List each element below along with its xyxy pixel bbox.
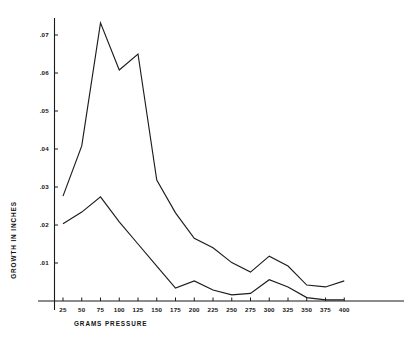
y-tick-label: .01: [40, 259, 50, 266]
x-tick-label: 300: [264, 306, 275, 313]
x-tick-label: 175: [170, 306, 181, 313]
x-tick-label: 225: [207, 306, 218, 313]
x-tick-label: 375: [320, 306, 331, 313]
x-tick-label: 200: [189, 306, 200, 313]
y-tick-label: .06: [40, 69, 50, 76]
chart-background: [0, 0, 411, 340]
line-chart: .01.02.03.04.05.06.07 255075100125150175…: [0, 0, 411, 340]
x-tick-label: 100: [114, 306, 125, 313]
x-tick-label: 350: [301, 306, 312, 313]
y-tick-label: .04: [40, 145, 50, 152]
x-tick-label: 400: [339, 306, 350, 313]
chart-container: .01.02.03.04.05.06.07 255075100125150175…: [0, 0, 411, 340]
x-axis-title: GRAMS PRESSURE: [74, 320, 147, 327]
y-tick-label: .02: [40, 221, 50, 228]
y-axis-title: GROWTH IN INCHES: [10, 201, 17, 279]
y-tick-label: .07: [40, 31, 50, 38]
y-tick-label: .03: [40, 183, 50, 190]
x-tick-label: 125: [132, 306, 143, 313]
x-tick-label: 75: [97, 306, 105, 313]
x-tick-label: 25: [59, 306, 67, 313]
x-tick-label: 150: [151, 306, 162, 313]
x-tick-label: 275: [245, 306, 256, 313]
x-tick-label: 250: [226, 306, 237, 313]
y-tick-label: .05: [40, 107, 50, 114]
x-tick-label: 50: [78, 306, 86, 313]
x-tick-label: 325: [282, 306, 293, 313]
